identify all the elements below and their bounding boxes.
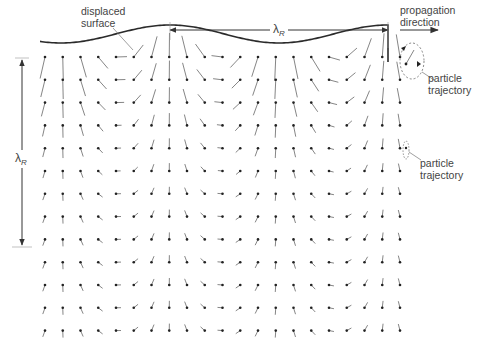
particle-dot bbox=[381, 284, 384, 287]
particle-dot bbox=[61, 124, 64, 127]
displacement-stick bbox=[183, 63, 187, 80]
depth-label: λR bbox=[12, 151, 30, 167]
particle-dot bbox=[363, 238, 366, 241]
particle-dot bbox=[186, 215, 189, 218]
particle-dot bbox=[239, 261, 242, 264]
particle-dot bbox=[132, 170, 135, 173]
particle-dot bbox=[150, 238, 153, 241]
displacement-stick bbox=[81, 103, 85, 116]
particle-dot bbox=[310, 124, 313, 127]
particle-dot bbox=[132, 124, 135, 127]
particle-dot bbox=[221, 215, 224, 218]
particle-dot bbox=[115, 261, 118, 264]
particle-trajectory-label-top: particle trajectory bbox=[428, 72, 471, 96]
particle-dot bbox=[399, 307, 402, 310]
particle-dot bbox=[328, 170, 331, 173]
particle-dot bbox=[310, 79, 313, 82]
particle-dot bbox=[274, 261, 277, 264]
particle-dot bbox=[132, 238, 135, 241]
particle-dot bbox=[186, 124, 189, 127]
particle-dot bbox=[203, 329, 206, 332]
particle-dot bbox=[132, 215, 135, 218]
particle-dot bbox=[310, 284, 313, 287]
label-line: direction bbox=[400, 16, 455, 28]
particle-dot bbox=[97, 101, 100, 104]
particle-dot bbox=[221, 101, 224, 104]
particle-dot bbox=[61, 193, 64, 196]
particle-dot bbox=[381, 101, 384, 104]
particle-dot bbox=[345, 170, 348, 173]
particle-dot bbox=[257, 238, 260, 241]
particle-dot bbox=[399, 147, 402, 150]
particle-dot bbox=[292, 124, 295, 127]
particle-dot bbox=[363, 101, 366, 104]
propagation-direction-label: propagation direction bbox=[400, 4, 455, 28]
particle-dot bbox=[115, 329, 118, 332]
particle-dot bbox=[363, 307, 366, 310]
particle-dot bbox=[132, 329, 135, 332]
particle-dot bbox=[363, 193, 366, 196]
particle-dot bbox=[328, 215, 331, 218]
particle-dot bbox=[221, 56, 224, 59]
particle-dot bbox=[292, 101, 295, 104]
particle-dot bbox=[274, 215, 277, 218]
displaced-surface-curve bbox=[40, 25, 388, 62]
particle-dot bbox=[115, 238, 118, 241]
particle-dot bbox=[239, 147, 242, 150]
particle-dot bbox=[97, 56, 100, 59]
particle-dot bbox=[61, 238, 64, 241]
particle-dot bbox=[310, 238, 313, 241]
displacement-stick bbox=[347, 97, 355, 103]
particle-dot bbox=[61, 101, 64, 104]
particle-dot bbox=[115, 79, 118, 82]
particle-dot bbox=[61, 284, 64, 287]
particle-dot bbox=[310, 193, 313, 196]
particle-dot bbox=[44, 284, 47, 287]
particle-dot bbox=[168, 284, 171, 287]
particle-dot bbox=[150, 170, 153, 173]
displacement-stick bbox=[398, 114, 400, 126]
particle-dot bbox=[345, 79, 348, 82]
particle-dot bbox=[292, 215, 295, 218]
particle-dot bbox=[363, 170, 366, 173]
particle-dot bbox=[292, 329, 295, 332]
displacement-stick bbox=[347, 48, 357, 57]
particle-dot bbox=[79, 238, 82, 241]
particle-dot bbox=[221, 170, 224, 173]
displacement-stick bbox=[81, 80, 86, 96]
displacement-stick bbox=[329, 80, 338, 82]
particle-dot bbox=[381, 261, 384, 264]
particle-dot bbox=[61, 147, 64, 150]
particle-dot bbox=[274, 56, 277, 59]
particle-dot bbox=[44, 56, 47, 59]
particle-dot bbox=[310, 215, 313, 218]
particle-dot bbox=[97, 193, 100, 196]
displacement-stick bbox=[212, 56, 223, 57]
particle-dot bbox=[399, 329, 402, 332]
particle-dot bbox=[132, 101, 135, 104]
particle-dot bbox=[186, 56, 189, 59]
particle-dot bbox=[79, 147, 82, 150]
displacement-stick bbox=[43, 125, 45, 136]
displacement-stick bbox=[252, 57, 258, 77]
particle-dot bbox=[239, 307, 242, 310]
particle-dot bbox=[381, 170, 384, 173]
particle-dot bbox=[150, 124, 153, 127]
particle-dot bbox=[221, 261, 224, 264]
displacement-stick bbox=[230, 57, 240, 68]
particle-dot bbox=[399, 101, 402, 104]
particle-dot bbox=[79, 79, 82, 82]
displacement-stick bbox=[182, 36, 187, 57]
particle-dot bbox=[345, 238, 348, 241]
particle-dot bbox=[186, 101, 189, 104]
particle-dot bbox=[328, 56, 331, 59]
particle-dot bbox=[328, 147, 331, 150]
particle-dot bbox=[310, 101, 313, 104]
displacement-stick bbox=[213, 79, 222, 80]
particle-dot bbox=[363, 215, 366, 218]
particle-dot bbox=[115, 284, 118, 287]
particle-dot bbox=[328, 261, 331, 264]
particle-dot bbox=[363, 284, 366, 287]
particle-grid bbox=[40, 33, 401, 338]
displacement-stick bbox=[275, 57, 276, 81]
